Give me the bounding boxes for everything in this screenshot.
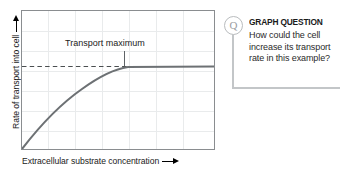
transport-maximum-pointer (124, 51, 125, 66)
question-line-2: increase its transport (249, 42, 343, 54)
question-line-3: rate in this example? (249, 53, 343, 65)
x-axis-label-text: Extracellular substrate concentration (22, 156, 159, 166)
transport-maximum-label: Transport maximum (65, 38, 145, 48)
callout-stem-line (232, 34, 234, 89)
arrow-right-icon (162, 158, 179, 165)
callout-elbow-line (232, 87, 340, 89)
question-marker-icon: Q (224, 16, 243, 35)
callout-body: GRAPH QUESTION How could the cell increa… (249, 17, 343, 65)
figure-panel: Rate of transport into cell (0, 0, 343, 175)
question-badge-letter: Q (230, 20, 238, 31)
graph-question-callout: Q GRAPH QUESTION How could the cell incr… (224, 16, 343, 106)
x-axis-label: Extracellular substrate concentration (22, 154, 179, 168)
plot-area (21, 10, 215, 150)
arrow-up-icon (13, 15, 20, 32)
question-line-1: How could the cell (249, 30, 343, 42)
graph-question-title: GRAPH QUESTION (249, 17, 336, 27)
graph-question-text: How could the cell increase its transpor… (249, 30, 343, 65)
y-axis-label-text: Rate of transport into cell (11, 35, 21, 129)
transport-rate-graph: Rate of transport into cell (0, 0, 222, 175)
saturation-curve (22, 11, 214, 149)
transport-rate-curve (22, 67, 214, 150)
